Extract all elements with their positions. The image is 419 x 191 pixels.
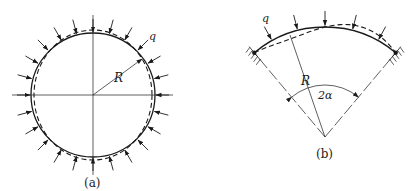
support-hatch bbox=[398, 50, 402, 55]
pressure-arrow bbox=[148, 56, 161, 63]
pressure-arrow bbox=[54, 27, 61, 40]
figure-a: R q (a) bbox=[12, 15, 173, 190]
left-radial-line bbox=[254, 53, 325, 137]
load-label: q bbox=[262, 12, 269, 25]
arch bbox=[254, 27, 395, 53]
pressure-arrow bbox=[138, 140, 148, 150]
pressure-arrow bbox=[38, 40, 48, 50]
pressure-arrow bbox=[154, 75, 168, 79]
support-hatch bbox=[400, 47, 404, 52]
support-hatch bbox=[256, 60, 260, 65]
pressure-arrow bbox=[73, 156, 77, 170]
support-hatch bbox=[246, 47, 250, 52]
supports bbox=[246, 47, 404, 65]
caption-a: (a) bbox=[84, 176, 101, 190]
radius-label: R bbox=[113, 71, 123, 85]
pressure-arrow bbox=[125, 150, 132, 163]
pressure-arrow bbox=[125, 27, 132, 40]
pressure-arrow bbox=[54, 150, 61, 163]
support-hatch bbox=[390, 60, 394, 65]
pressure-arrow bbox=[73, 20, 77, 34]
pressure-arrow bbox=[25, 127, 38, 134]
diagram-canvas: R q (a) R 2α q (b) bbox=[0, 0, 419, 191]
pressure-arrow bbox=[109, 156, 113, 170]
right-radial-line bbox=[325, 53, 396, 137]
load-arrow bbox=[264, 27, 271, 40]
support-hatch bbox=[392, 57, 396, 62]
pressure-arrow bbox=[25, 56, 38, 63]
angle-label: 2α bbox=[317, 89, 333, 102]
pressure-arrow bbox=[138, 40, 148, 50]
pressure-arrow bbox=[109, 20, 113, 34]
load-arrow bbox=[294, 15, 298, 29]
pressure-arrow bbox=[38, 140, 48, 150]
support-hatch bbox=[249, 50, 253, 55]
load-arrow bbox=[379, 27, 386, 40]
caption-b: (b) bbox=[316, 147, 333, 161]
pressure-arrow bbox=[148, 127, 161, 134]
pressure-arrow bbox=[154, 111, 168, 115]
radius-label: R bbox=[300, 74, 310, 88]
pressure-arrow bbox=[18, 75, 32, 79]
load-arrow bbox=[353, 15, 357, 29]
pressure-arrow bbox=[18, 111, 32, 115]
figure-b: R 2α q (b) bbox=[246, 11, 404, 161]
support-hatch bbox=[254, 57, 258, 62]
load-label: q bbox=[149, 30, 156, 43]
